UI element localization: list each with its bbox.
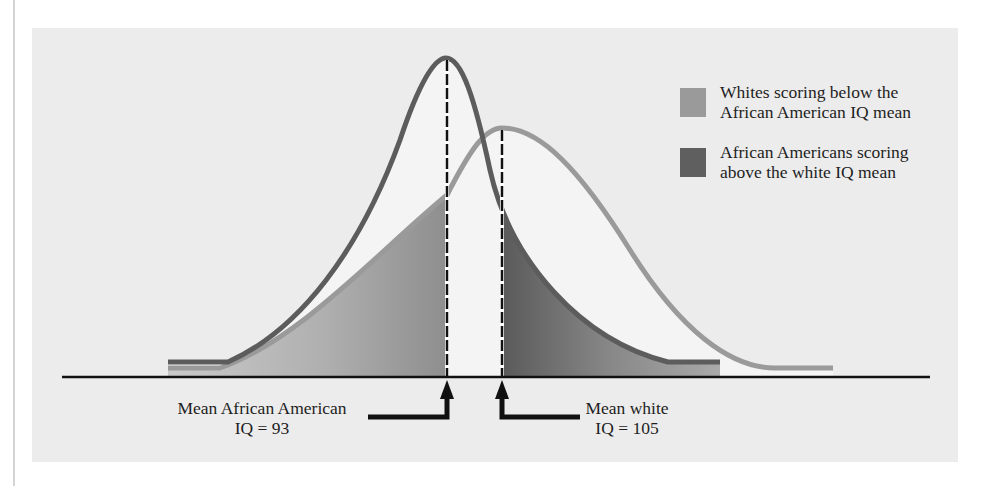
iq-distribution-chart xyxy=(0,0,983,486)
legend-swatch-light xyxy=(680,88,706,117)
legend: Whites scoring below the African America… xyxy=(680,82,960,202)
legend-item-aa-above: African Americans scoring above the whit… xyxy=(680,142,960,198)
white-mean-arrowhead xyxy=(495,380,509,399)
white-mean-arrow xyxy=(502,396,580,417)
white-mean-label-line2: IQ = 105 xyxy=(572,418,682,438)
aa-mean-label-line2: IQ = 93 xyxy=(162,418,362,438)
legend-label: Whites scoring below the African America… xyxy=(720,82,911,122)
legend-swatch-dark xyxy=(680,148,706,177)
white-mean-label-line1: Mean white xyxy=(572,398,682,418)
legend-item-whites-below: Whites scoring below the African America… xyxy=(680,82,960,138)
aa-mean-label: Mean African American IQ = 93 xyxy=(162,398,362,438)
aa-mean-label-line1: Mean African American xyxy=(162,398,362,418)
aa-mean-arrow xyxy=(368,396,447,417)
white-mean-label: Mean white IQ = 105 xyxy=(572,398,682,438)
aa-mean-arrowhead xyxy=(440,380,454,399)
legend-label: African Americans scoring above the whit… xyxy=(720,142,909,182)
